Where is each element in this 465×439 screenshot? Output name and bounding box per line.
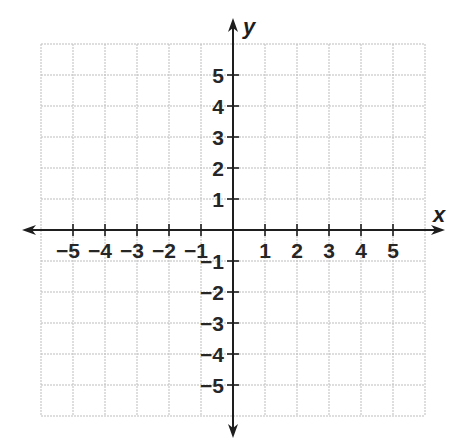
- y-tick-label: −2: [200, 281, 224, 304]
- x-tick-label: 2: [291, 239, 303, 262]
- y-axis-label: y: [242, 14, 257, 39]
- coordinate-plane: −5−4−3−2−112345 −5−4−3−2−112345 x y: [0, 0, 465, 439]
- x-tick-label: −4: [88, 239, 112, 262]
- y-tick-label: 4: [212, 95, 224, 118]
- x-tick-label: 5: [387, 239, 399, 262]
- y-tick-label: −3: [200, 312, 224, 335]
- x-tick-label: −3: [120, 239, 144, 262]
- y-tick-label: 1: [212, 188, 224, 211]
- x-tick-label: 3: [323, 239, 335, 262]
- y-tick-label: 2: [212, 157, 224, 180]
- x-tick-label: 1: [259, 239, 271, 262]
- x-tick-label: 4: [355, 239, 367, 262]
- y-tick-label: −4: [200, 343, 224, 366]
- y-tick-label: 3: [212, 126, 224, 149]
- x-axis-label: x: [432, 202, 446, 227]
- y-tick-label: −1: [200, 250, 224, 273]
- axes: [22, 18, 445, 438]
- x-tick-label: −2: [152, 239, 176, 262]
- y-tick-label: −5: [200, 374, 224, 397]
- y-tick-label: 5: [212, 64, 224, 87]
- x-tick-label: −5: [56, 239, 80, 262]
